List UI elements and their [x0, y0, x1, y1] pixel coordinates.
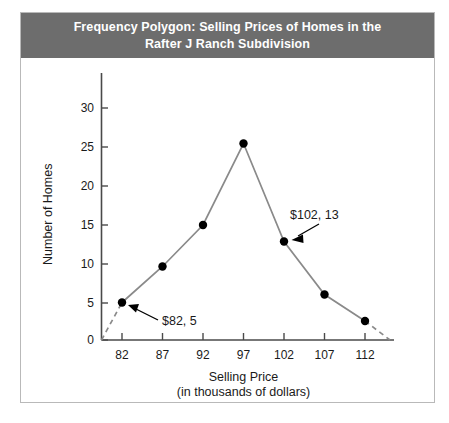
x-tick-label-87: 87: [156, 348, 170, 362]
data-point-markers: [118, 139, 369, 325]
data-point-87: [158, 262, 166, 270]
annotation-82-5-arrowhead: [128, 304, 139, 313]
figure-root: Frequency Polygon: Selling Prices of Hom…: [0, 0, 449, 423]
data-point-82: [118, 298, 126, 306]
y-axis-tick-labels: 0 5 10 15 20 25 30: [81, 101, 95, 347]
data-point-102: [280, 237, 288, 245]
x-axis-title: Selling Price: [209, 370, 279, 384]
annotation-102-13: $102, 13: [290, 208, 339, 243]
y-tick-label-5: 5: [87, 296, 94, 310]
y-tick-label-25: 25: [81, 140, 95, 154]
x-tick-label-107: 107: [314, 348, 334, 362]
x-axis-subtitle: (in thousands of dollars): [177, 385, 310, 399]
polygon-dashed-right: [365, 321, 390, 340]
x-tick-label-102: 102: [274, 348, 294, 362]
y-tick-label-0: 0: [87, 333, 94, 347]
data-point-97: [239, 139, 247, 147]
x-axis-tick-labels: 82 87 92 97 102 107 112: [115, 348, 375, 362]
y-tick-label-15: 15: [81, 218, 95, 232]
annotation-82-5: $82, 5: [128, 304, 197, 328]
polygon-dashed-left: [102, 303, 123, 341]
x-tick-label-97: 97: [237, 348, 251, 362]
x-tick-label-82: 82: [115, 348, 129, 362]
y-tick-label-10: 10: [81, 257, 95, 271]
annotation-82-5-leader: [134, 308, 158, 320]
data-point-92: [199, 221, 207, 229]
x-tick-label-92: 92: [196, 348, 210, 362]
annotation-82-5-label: $82, 5: [162, 314, 197, 328]
annotation-102-13-arrowhead: [292, 235, 304, 244]
y-axis-ticks: [102, 108, 109, 340]
y-axis-title: Number of Homes: [41, 164, 55, 265]
x-tick-label-112: 112: [355, 348, 374, 362]
y-tick-label-30: 30: [81, 101, 95, 115]
data-point-112: [361, 317, 369, 325]
annotation-102-13-label: $102, 13: [290, 208, 339, 222]
frequency-polygon-chart: 0 5 10 15 20 25 30 Number of Homes 82 87…: [0, 0, 449, 423]
data-point-107: [320, 290, 328, 298]
y-tick-label-20: 20: [81, 179, 95, 193]
x-axis-ticks: [122, 333, 365, 340]
annotation-102-13-leader: [298, 224, 319, 236]
